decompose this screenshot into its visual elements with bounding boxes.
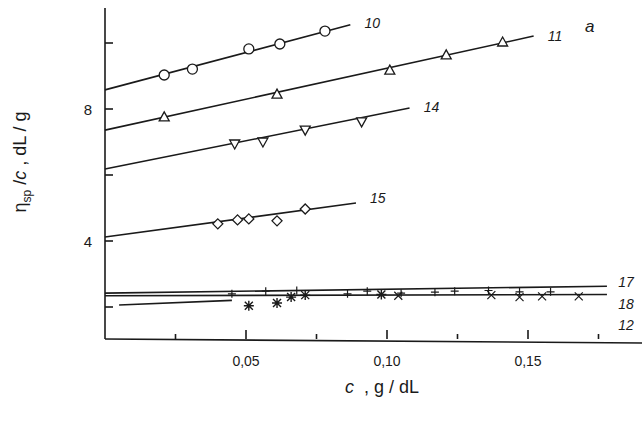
fit-line: [105, 203, 356, 237]
x-marker: [575, 292, 583, 300]
plus-marker: [344, 290, 352, 298]
fit-line: [105, 286, 607, 293]
series-label: 17: [618, 274, 635, 290]
plus-marker: [262, 287, 270, 295]
series-18: 18: [105, 291, 634, 312]
fit-line: [105, 25, 350, 90]
series-label: 18: [618, 296, 634, 312]
x-tick-label: 0,15: [514, 353, 541, 369]
x-tick-label: 0,10: [373, 353, 400, 369]
series-label: 11: [548, 28, 563, 44]
diamond-marker: [272, 216, 282, 226]
triangle-down-marker: [300, 126, 310, 135]
plus-marker: [363, 287, 371, 295]
series-label: 14: [424, 99, 440, 115]
tick-labels: 0,050,100,1548: [84, 101, 542, 369]
asterisk-marker: [376, 289, 386, 299]
series-label: 10: [364, 15, 380, 31]
x-axis-line: [105, 339, 642, 343]
triangle-down-marker: [357, 118, 367, 127]
x-axis-label: c , g / dL: [345, 377, 419, 398]
series-label: 15: [370, 190, 386, 206]
diamond-marker: [233, 215, 243, 225]
series-14: 14: [105, 99, 439, 169]
chart-plot: 10111415171812 0,050,100,1548: [0, 0, 643, 444]
triangle-down-marker: [258, 138, 268, 147]
asterisk-marker: [286, 292, 296, 302]
x-marker: [538, 292, 546, 300]
diamond-marker: [244, 214, 254, 224]
series-15: 15: [105, 190, 386, 237]
fit-line: [105, 294, 607, 295]
asterisk-marker: [272, 298, 282, 308]
series-group: 10111415171812: [105, 15, 635, 333]
circle-marker: [244, 44, 254, 54]
y-tick-label: 8: [84, 101, 92, 118]
panel-label: a: [585, 17, 594, 37]
series-label: 12: [618, 317, 634, 333]
circle-marker: [320, 26, 330, 36]
asterisk-marker: [244, 301, 254, 311]
fit-line: [105, 36, 534, 130]
series-11: 11: [105, 28, 562, 130]
y-axis-label: ηsp /c , dL / g: [10, 92, 34, 232]
circle-marker: [275, 39, 285, 49]
circle-marker: [187, 64, 197, 74]
fit-line: [105, 108, 410, 169]
y-tick-label: 4: [84, 233, 92, 250]
diamond-marker: [213, 219, 223, 229]
x-tick-label: 0,05: [232, 353, 259, 369]
asterisk-marker: [300, 290, 310, 300]
diamond-marker: [300, 204, 310, 214]
fit-line: [119, 300, 232, 305]
circle-marker: [159, 70, 169, 80]
